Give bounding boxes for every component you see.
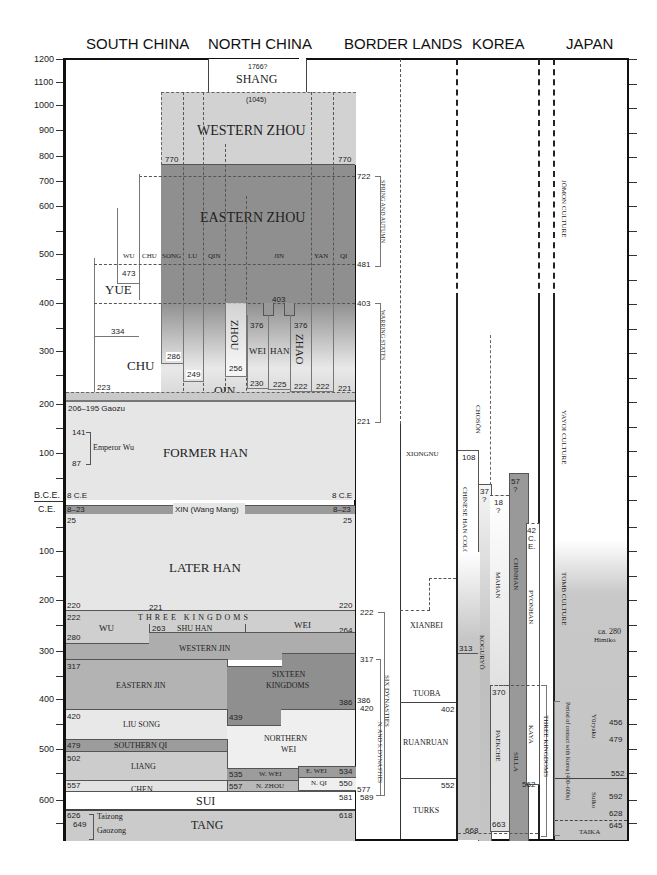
- wu-kingdom-label: WU: [99, 623, 114, 633]
- yue-label: YUE: [105, 282, 132, 298]
- turks-label: TURKS: [413, 806, 439, 815]
- state-chu: CHU: [142, 252, 157, 260]
- date-249: 249: [186, 370, 201, 379]
- northern-wei-label-1: NORTHERN: [264, 734, 307, 743]
- date-645: 645: [609, 821, 622, 830]
- spring-autumn-label: SPRING AND AUTUMN: [380, 180, 386, 243]
- later-han-end-left: 220: [67, 601, 80, 610]
- date-663: 663: [492, 820, 505, 829]
- former-han-label: FORMER HAN: [163, 445, 248, 461]
- date-562: 562: [522, 780, 535, 789]
- ns-420: 420: [360, 704, 373, 713]
- tuoba-label: TUOBA: [413, 689, 441, 698]
- western-jin-label: WESTERN JIN: [179, 644, 230, 653]
- date-626: 626: [67, 811, 80, 820]
- state-qi: QI: [340, 252, 347, 260]
- ws-end: 221: [357, 417, 370, 426]
- date-313: 313: [459, 644, 472, 653]
- date-317: 317: [67, 662, 80, 671]
- western-zhou-start: (1045): [246, 96, 266, 103]
- tomb-label: TOMB CULTURE: [560, 572, 568, 625]
- suiko-label: Suiko: [590, 792, 598, 808]
- tick-200: 200: [39, 399, 54, 409]
- xin-left: 8–23: [67, 505, 85, 514]
- tick-500: 500: [39, 249, 54, 259]
- date-386: 386: [339, 698, 352, 707]
- jomon-label: JŌMON CULTURE: [560, 180, 568, 238]
- wei-kingdom-label: WEI: [294, 620, 311, 630]
- six-dynasties-label: SIX DYNASTIES: [383, 675, 391, 727]
- era-bce: B.C.E.: [34, 490, 60, 500]
- header-north-china: NORTH CHINA: [208, 35, 312, 52]
- wei-label: WEI: [249, 346, 266, 356]
- ns-dynasties-label: N. AND S. DYNASTIES: [363, 722, 383, 783]
- date-456: 456: [609, 718, 622, 727]
- tick-100: 100: [39, 448, 54, 458]
- date-402: 402: [441, 705, 454, 714]
- ruanruan-label: RUANRUAN: [403, 738, 448, 747]
- liu-song-label: LIU SONG: [123, 720, 160, 729]
- warring-states-label: WARRING STATES: [380, 310, 386, 360]
- date-552-turks: 552: [441, 781, 454, 790]
- date-222-tk: 222: [67, 613, 80, 622]
- former-han-end-left: 8 C.E: [67, 491, 87, 500]
- pyonhan-block: [526, 523, 540, 785]
- q-18: ?: [496, 506, 500, 515]
- era-ce: C.E.: [38, 504, 56, 514]
- header-japan: JAPAN: [566, 35, 613, 52]
- southern-qi-label: SOUTHERN QI: [114, 741, 167, 750]
- date-222-yan: 222: [316, 382, 329, 391]
- header-south-china: SOUTH CHINA: [86, 35, 189, 52]
- tick-1200: 1200: [34, 54, 54, 64]
- choson-label: CHOSŎN: [474, 405, 482, 434]
- date-334: 334: [111, 327, 124, 336]
- sa-start: 722: [357, 172, 370, 181]
- chinhan-label: CHINHAN: [512, 558, 520, 590]
- sui-label: SUI: [196, 794, 215, 809]
- ns-start: 317: [360, 655, 373, 664]
- shang-label: SHANG: [236, 72, 277, 87]
- pyonhan-label: PYONHAN: [527, 590, 535, 624]
- tick-1000: 1000: [34, 100, 54, 110]
- kaya-label: KAYA: [527, 725, 535, 744]
- japan-right-border: [627, 58, 629, 840]
- three-kingdoms-title: THREE KINGDOMS: [138, 613, 251, 622]
- date-223: 223: [97, 383, 110, 392]
- later-han-start-left: 25: [67, 516, 76, 525]
- tick-700: 700: [39, 176, 54, 186]
- tick-ce-600: 600: [39, 795, 54, 805]
- date-550: 550: [339, 779, 352, 788]
- ws-start: 403: [357, 299, 370, 308]
- gaozong-label: Gaozong: [97, 826, 126, 835]
- western-zhou-label: WESTERN ZHOU: [197, 123, 306, 139]
- date-230: 230: [250, 379, 263, 388]
- sixteen-kingdoms-label-1: SIXTEEN: [272, 670, 305, 679]
- zhao-label: ZHAO: [294, 334, 306, 365]
- xiongnu-label: XIONGNU: [406, 450, 439, 458]
- paekche-label: PAEKCHE: [494, 730, 502, 762]
- silla-label: SILLA: [512, 752, 520, 772]
- tick-1100: 1100: [34, 77, 53, 87]
- eastern-zhou-label: EASTERN ZHOU: [200, 210, 305, 226]
- later-han-end-right: 220: [339, 601, 352, 610]
- n-zhou-label: N. ZHOU: [256, 782, 284, 790]
- emperor-wu-label: Emperor Wu: [93, 443, 134, 452]
- yayoi-label: YAYOI CULTURE: [560, 410, 568, 465]
- tick-300: 300: [39, 346, 54, 356]
- date-420: 420: [67, 712, 80, 721]
- xin-right: 8–23: [333, 505, 351, 514]
- q-37: ?: [482, 495, 486, 504]
- header-korea: KOREA: [472, 35, 525, 52]
- date-649: 649: [73, 820, 86, 829]
- xin-label: XIN (Wang Mang): [175, 505, 239, 514]
- shang-start: 1766?: [248, 63, 267, 70]
- date-286: 286: [166, 352, 181, 361]
- date-108: 108: [462, 453, 475, 462]
- q-57: ?: [513, 485, 517, 494]
- date-628: 628: [609, 809, 622, 818]
- zhou-label: ZHOU: [229, 320, 241, 351]
- later-han-start-right: 25: [343, 516, 352, 525]
- date-473: 473: [122, 269, 135, 278]
- xianbei-label: XIANBEI: [410, 621, 443, 630]
- state-wu: WU: [123, 252, 135, 260]
